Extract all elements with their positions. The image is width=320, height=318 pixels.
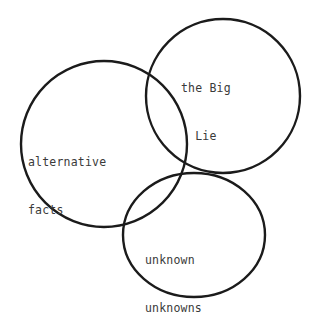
venn-label-big-lie: the Big Lie xyxy=(181,48,231,176)
venn-diagram: the Big Lie alternative facts unknown un… xyxy=(0,0,320,318)
venn-label-alternative-facts-line2: facts xyxy=(28,202,106,218)
venn-label-alternative-facts-line1: alternative xyxy=(28,154,106,170)
venn-label-alternative-facts: alternative facts xyxy=(28,122,106,250)
venn-label-unknown-unknowns-line1: unknown xyxy=(145,252,202,268)
venn-label-unknown-unknowns: unknown unknowns xyxy=(145,220,202,318)
venn-label-unknown-unknowns-line2: unknowns xyxy=(145,300,202,316)
venn-label-big-lie-line1: the Big xyxy=(181,80,231,96)
venn-label-big-lie-line2: Lie xyxy=(181,128,231,144)
